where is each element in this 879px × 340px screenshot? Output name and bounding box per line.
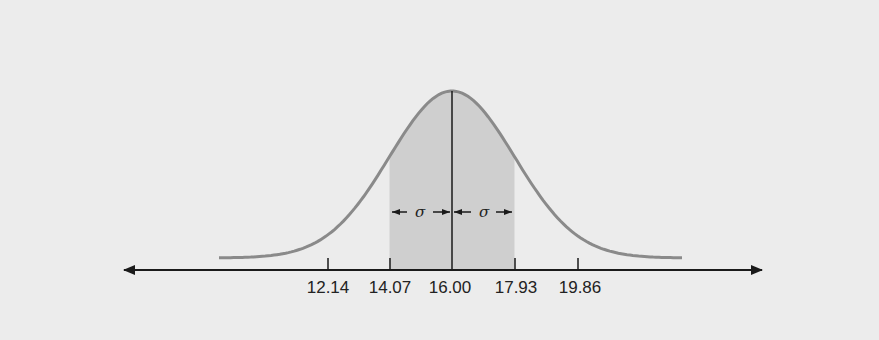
sigma-right-label: σ: [479, 203, 490, 221]
sigma-left-label: σ: [415, 203, 426, 221]
tick-label-12-14: 12.14: [307, 278, 350, 297]
chart-svg: 12.14 14.07 16.00 17.93 19.86 σ σ: [0, 0, 879, 340]
tick-label-14-07: 14.07: [369, 278, 412, 297]
tick-label-19-86: 19.86: [559, 278, 602, 297]
tick-label-16-00: 16.00: [429, 278, 472, 297]
tick-label-17-93: 17.93: [495, 278, 538, 297]
normal-distribution-figure: 12.14 14.07 16.00 17.93 19.86 σ σ: [0, 0, 879, 340]
